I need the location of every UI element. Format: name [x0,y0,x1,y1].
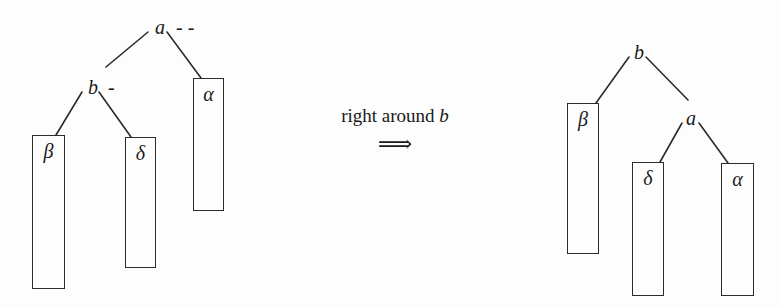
rotation-caption-text: right around b [300,104,490,128]
right-tree-subtree-alpha: α [721,163,754,296]
left-tree-subtree-alpha: α [193,78,224,211]
right-tree-subtree-alpha-label: α [722,167,753,191]
right-tree-edge-a-alpha [699,123,728,163]
left-tree-edge-b-delta [99,92,131,137]
rotation-caption-node: b [439,105,449,126]
right-tree-subtree-beta: β [567,103,599,254]
left-tree-edges [56,32,201,137]
right-tree-subtree-beta-label: β [568,107,598,131]
right-tree-node-a: a [686,108,696,128]
left-tree-subtree-delta-label: δ [126,141,155,165]
left-tree-node-a: a [155,17,165,37]
left-tree-subtree-alpha-label: α [194,82,223,106]
left-tree-node-a-balance-mark: - - [176,17,194,37]
right-tree-edges [596,57,728,163]
right-tree-subtree-delta-label: δ [633,166,663,190]
left-tree-edge-b-beta [56,92,82,135]
left-tree-edge-a-alpha [167,32,201,78]
right-tree-edge-a-delta [660,123,682,162]
left-tree-subtree-beta: β [32,135,65,289]
right-tree-edge-b-beta [596,57,629,103]
right-tree-subtree-delta: δ [632,162,664,296]
left-tree-node-b: b [88,77,98,97]
rotation-caption: right around b ⟹ [300,104,490,158]
rotation-caption-prefix: right around [341,105,439,126]
right-tree-edge-b-a [646,57,688,100]
left-tree-node-b-balance-mark: - [108,77,115,97]
avl-rotation-figure: a - - b - β δ α right around b ⟹ b a β [0,0,780,307]
right-tree-node-b: b [634,42,644,62]
left-tree-subtree-beta-label: β [33,139,64,163]
double-right-arrow-icon: ⟹ [300,130,490,158]
left-tree-subtree-delta: δ [125,137,156,268]
left-tree-edge-a-b [106,32,148,67]
